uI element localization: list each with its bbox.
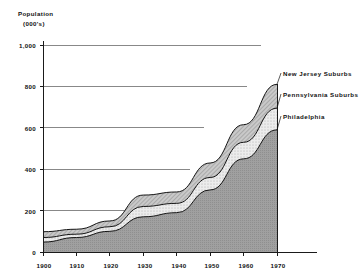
legend-leader-lines (277, 73, 281, 130)
plot-surface (0, 0, 364, 280)
population-area-chart: Population (000's) 1,000 800 600 400 200… (0, 0, 364, 280)
series-areas (43, 84, 277, 252)
